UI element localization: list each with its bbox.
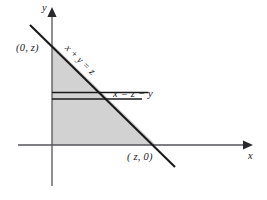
x-axis-arrowhead — [243, 140, 253, 149]
y-intercept-label: (0, z) — [16, 43, 39, 54]
x-intercept-label: ( z, 0) — [127, 152, 153, 163]
convolution-region-figure: y x (0, z) ( z, 0) x + y = z x = z − y — [0, 0, 267, 200]
y-axis-label: y — [42, 3, 47, 14]
strip-equation-label: x = z − y — [113, 89, 153, 100]
x-axis-label: x — [248, 151, 253, 162]
y-axis-arrowhead — [47, 7, 56, 17]
figure-canvas — [0, 0, 267, 200]
